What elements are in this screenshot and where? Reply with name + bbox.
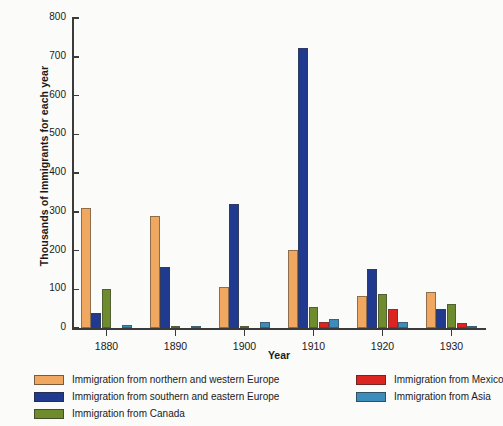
- y-tick-label: 800: [30, 11, 66, 22]
- bar: [229, 204, 239, 328]
- bar: [426, 292, 436, 328]
- legend-label: Immigration from southern and eastern Eu…: [72, 391, 279, 402]
- legend-swatch-icon: [356, 375, 386, 385]
- x-tick-mark: [106, 328, 108, 336]
- legend-column-left: Immigration from northern and western Eu…: [34, 372, 279, 423]
- bars-layer: [72, 18, 486, 328]
- bar: [102, 289, 112, 328]
- bar: [122, 325, 132, 328]
- x-tick-mark: [382, 328, 384, 336]
- legend-swatch-icon: [34, 375, 64, 385]
- legend-item: Immigration from northern and western Eu…: [34, 372, 279, 387]
- bar: [150, 216, 160, 328]
- bar: [219, 287, 229, 328]
- legend-column-right: Immigration from MexicoImmigration from …: [356, 372, 503, 406]
- legend-label: Immigration from Canada: [72, 408, 185, 419]
- bar: [329, 319, 339, 328]
- y-tick-label: 400: [30, 166, 66, 177]
- y-tick-label: 700: [30, 50, 66, 61]
- bar: [91, 313, 101, 328]
- bar: [378, 294, 388, 328]
- legend-item: Immigration from Canada: [34, 406, 279, 421]
- legend-item: Immigration from Asia: [356, 389, 503, 404]
- legend-item: Immigration from southern and eastern Eu…: [34, 389, 279, 404]
- x-tick-mark: [175, 328, 177, 336]
- bar: [388, 309, 398, 328]
- bar: [298, 48, 308, 328]
- legend-swatch-icon: [356, 392, 386, 402]
- bar: [436, 309, 446, 328]
- x-tick-mark: [451, 328, 453, 336]
- y-tick-label: 600: [30, 89, 66, 100]
- legend-label: Immigration from northern and western Eu…: [72, 374, 279, 385]
- x-tick-mark: [244, 328, 246, 336]
- y-tick-label: 200: [30, 244, 66, 255]
- bar: [447, 304, 457, 328]
- plot-area: 0100200300400500600700800 18801890190019…: [72, 18, 486, 330]
- bar: [367, 269, 377, 328]
- x-axis-line: [72, 328, 486, 330]
- y-tick-label: 300: [30, 205, 66, 216]
- legend-swatch-icon: [34, 392, 64, 402]
- bar: [357, 296, 367, 328]
- y-tick-label: 500: [30, 127, 66, 138]
- y-tick-label: 100: [30, 282, 66, 293]
- chart-legend: Immigration from northern and western Eu…: [34, 372, 484, 420]
- legend-swatch-icon: [34, 409, 64, 419]
- bar: [457, 323, 467, 328]
- x-axis-title: Year: [72, 349, 486, 361]
- bar: [319, 322, 329, 328]
- bar: [191, 326, 201, 328]
- bar: [467, 326, 477, 328]
- y-tick-label: 0: [30, 321, 66, 332]
- x-tick-mark: [313, 328, 315, 336]
- bar: [160, 267, 170, 328]
- bar: [398, 322, 408, 328]
- bar: [309, 307, 319, 328]
- legend-label: Immigration from Mexico: [394, 374, 503, 385]
- legend-label: Immigration from Asia: [394, 391, 491, 402]
- bar: [81, 208, 91, 328]
- bar: [260, 322, 270, 328]
- legend-item: Immigration from Mexico: [356, 372, 503, 387]
- bar: [288, 250, 298, 328]
